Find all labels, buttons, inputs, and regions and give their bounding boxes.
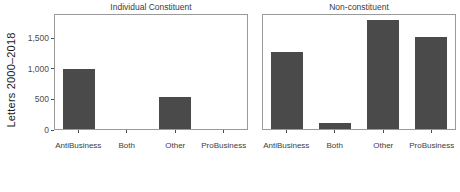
bar-group xyxy=(263,15,455,129)
x-axis xyxy=(54,130,248,140)
facet-panel: Individual ConstituentAntiBusinessBothOt… xyxy=(54,0,248,192)
bar xyxy=(159,97,192,129)
x-axis-tick-label: AntiBusiness xyxy=(263,141,309,150)
x-axis-tick-mark xyxy=(383,130,384,133)
x-axis-label-slot: AntiBusiness xyxy=(54,141,103,150)
facet-panels: Individual ConstituentAntiBusinessBothOt… xyxy=(54,0,456,192)
y-axis-tick-label: 0 xyxy=(44,126,51,135)
x-axis-label-slot: ProBusiness xyxy=(200,141,249,150)
x-axis-tick-mark xyxy=(223,130,224,133)
x-axis-label-slot: ProBusiness xyxy=(408,141,457,150)
plot-area xyxy=(262,14,456,130)
x-axis xyxy=(262,130,456,140)
facet-panel-title: Individual Constituent xyxy=(54,0,248,14)
bar-group xyxy=(55,15,247,129)
y-axis-tick-label: 1,000 xyxy=(28,65,51,74)
bar-slot xyxy=(151,15,199,129)
bar xyxy=(63,69,96,129)
x-axis-tick-label: Both xyxy=(327,141,343,150)
y-axis: 05001,0001,500 xyxy=(20,14,54,130)
bar-slot xyxy=(263,15,311,129)
y-axis-tick-label: 1,500 xyxy=(28,34,51,43)
x-axis-label-slot: Both xyxy=(103,141,152,150)
x-axis-tick-label: ProBusiness xyxy=(201,141,246,150)
bar xyxy=(367,20,400,129)
bar xyxy=(271,52,304,129)
x-axis-tick xyxy=(200,130,249,133)
facet-panel: Non-constituentAntiBusinessBothOtherProB… xyxy=(262,0,456,192)
x-axis-tick-mark xyxy=(431,130,432,133)
x-axis-tick xyxy=(54,130,103,133)
x-axis-label-slot: AntiBusiness xyxy=(262,141,311,150)
x-axis-tick-mark xyxy=(126,130,127,133)
x-axis-tick-mark xyxy=(78,130,79,133)
x-axis-tick-mark xyxy=(286,130,287,133)
y-axis-title-text: Letters 2000–2018 xyxy=(5,32,17,127)
x-axis-labels: AntiBusinessBothOtherProBusiness xyxy=(262,141,456,150)
x-axis-tick xyxy=(103,130,152,133)
x-axis-tick xyxy=(151,130,200,133)
facet-panel-title: Non-constituent xyxy=(262,0,456,14)
bar-chart-figure: Letters 2000–2018 05001,0001,500 Individ… xyxy=(0,0,460,192)
y-axis-title: Letters 2000–2018 xyxy=(0,0,22,160)
bar-slot xyxy=(311,15,359,129)
x-axis-tick-label: Other xyxy=(373,141,393,150)
x-axis-tick xyxy=(311,130,360,133)
bar-slot xyxy=(359,15,407,129)
bar-slot xyxy=(407,15,455,129)
x-axis-tick xyxy=(408,130,457,133)
x-axis-labels: AntiBusinessBothOtherProBusiness xyxy=(54,141,248,150)
plot-area xyxy=(54,14,248,130)
x-axis-tick-mark xyxy=(175,130,176,133)
y-axis-tick-label: 500 xyxy=(35,95,51,104)
x-axis-label-slot: Both xyxy=(311,141,360,150)
bar xyxy=(415,37,448,129)
x-axis-label-slot: Other xyxy=(151,141,200,150)
x-axis-tick-mark xyxy=(334,130,335,133)
bar-slot xyxy=(199,15,247,129)
x-axis-tick-label: AntiBusiness xyxy=(55,141,101,150)
bar-slot xyxy=(55,15,103,129)
x-axis-tick xyxy=(359,130,408,133)
x-axis-tick-label: Both xyxy=(119,141,135,150)
x-axis-tick-label: Other xyxy=(165,141,185,150)
x-axis-label-slot: Other xyxy=(359,141,408,150)
bar-slot xyxy=(103,15,151,129)
x-axis-tick-label: ProBusiness xyxy=(409,141,454,150)
bar xyxy=(319,123,352,129)
x-axis-tick xyxy=(262,130,311,133)
